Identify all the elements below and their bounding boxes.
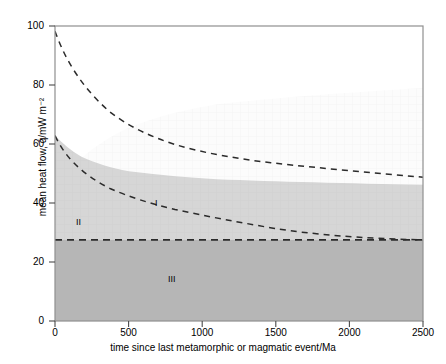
xtick-label-0: 0: [35, 327, 75, 338]
x-axis-title: time since last metamorphic or magmatic …: [0, 342, 446, 353]
xtick-label-500: 500: [109, 327, 149, 338]
region-III-fill: [55, 240, 423, 321]
ytick-label-0: 0: [14, 315, 44, 326]
y-axis-title: mean heat flow, q̄/mW m⁻²: [37, 98, 48, 216]
region-label-II: II: [76, 217, 81, 227]
xtick-label-1000: 1000: [182, 327, 222, 338]
chart-canvas: [0, 0, 446, 364]
xtick-label-2500: 2500: [403, 327, 443, 338]
ytick-label-100: 100: [14, 20, 44, 31]
region-label-I: I: [155, 198, 158, 208]
xtick-label-2000: 2000: [329, 327, 369, 338]
heat-flow-chart: 100 80 60 40 20 0 0 500 1000 1500 2000 2…: [0, 0, 446, 364]
region-label-III: III: [168, 274, 176, 284]
y-axis-title-container: mean heat flow, q̄/mW m⁻²: [32, 32, 50, 282]
xtick-label-1500: 1500: [256, 327, 296, 338]
